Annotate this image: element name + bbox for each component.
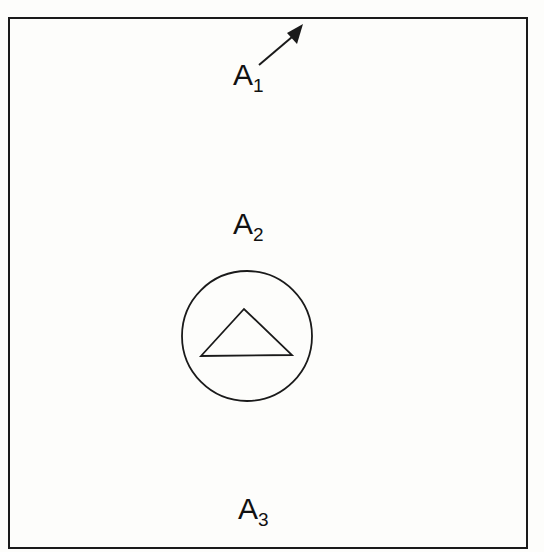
- arrow-icon: [259, 24, 303, 65]
- label-a2: A2: [233, 209, 264, 244]
- label-a3: A3: [238, 494, 269, 529]
- frame-border: [9, 18, 527, 548]
- label-a1: A1: [233, 60, 264, 95]
- circle-shape: [182, 271, 312, 401]
- diagram-canvas: [0, 0, 544, 552]
- triangle-shape: [201, 309, 292, 356]
